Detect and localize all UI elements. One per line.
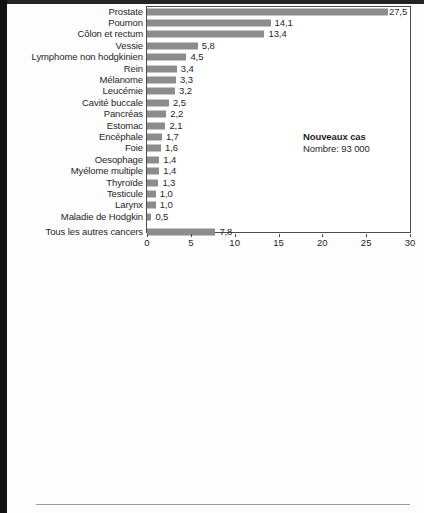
bar-track: 2,5 — [147, 97, 410, 108]
bar — [147, 31, 264, 38]
axis-tick-label: 20 — [317, 237, 328, 248]
bar-value-label: 1,4 — [163, 155, 176, 165]
category-label: Côlon et rectum — [77, 29, 143, 39]
bar-value-label: 2,2 — [170, 109, 183, 119]
category-label: Lymphome non hodgkinien — [32, 52, 143, 62]
bar-row: Côlon et rectum13,4 — [0, 29, 424, 40]
bar-row: Maladie de Hodgkin0,5 — [0, 211, 424, 222]
bar-value-label: 1,0 — [160, 200, 173, 210]
bar-track: 1,0 — [147, 200, 410, 211]
bar-value-label: 1,6 — [165, 143, 178, 153]
category-label: Cavité buccale — [82, 98, 143, 108]
bar-track: 1,4 — [147, 165, 410, 176]
footer-rule — [36, 504, 410, 505]
bar — [147, 42, 198, 49]
category-label: Testicule — [107, 189, 143, 199]
category-label: Foie — [125, 143, 143, 153]
category-label: Thyroïde — [106, 178, 143, 188]
bar-track: 1,6 — [147, 143, 410, 154]
bar-row: Lymphome non hodgkinien4,5 — [0, 52, 424, 63]
bar — [147, 179, 158, 186]
bar-value-label: 27,5 — [389, 7, 407, 17]
bar-value-label: 2,5 — [173, 98, 186, 108]
bar — [147, 65, 177, 72]
axis-tick-label: 10 — [229, 237, 240, 248]
bar — [147, 168, 159, 175]
bar-row: Prostate27,5 — [0, 6, 424, 17]
bar — [147, 122, 165, 129]
category-label: Myélome multiple — [71, 166, 143, 176]
bar-track: 1,4 — [147, 154, 410, 165]
bar-row: Vessie5,8 — [0, 40, 424, 51]
bar-row: Estomac2,1 — [0, 120, 424, 131]
bar — [147, 8, 388, 15]
bar-value-label: 4,5 — [190, 52, 203, 62]
axis-tick-label: 25 — [361, 237, 372, 248]
bar-row: Myélome multiple1,4 — [0, 165, 424, 176]
bar-track: 1,0 — [147, 188, 410, 199]
bar-value-label: 1,3 — [162, 178, 175, 188]
category-label: Vessie — [116, 41, 143, 51]
bar-value-label: 13,4 — [268, 29, 286, 39]
bar — [147, 213, 151, 220]
bar-row: Thyroïde1,3 — [0, 177, 424, 188]
bar-track: 2,2 — [147, 109, 410, 120]
axis-tick-label: 30 — [405, 237, 416, 248]
bar-track: 0,5 — [147, 211, 410, 222]
bar-value-label: 3,4 — [181, 64, 194, 74]
bar-value-label: 1,7 — [166, 132, 179, 142]
bar-track: 3,3 — [147, 74, 410, 85]
bar-row: Oesophage1,4 — [0, 154, 424, 165]
chart-panel-nouveaux-cas: Prostate27,5Poumon14,1Côlon et rectum13,… — [0, 0, 424, 252]
bar-row: Cavité buccale2,5 — [0, 97, 424, 108]
bar — [147, 190, 156, 197]
bar-value-label: 1,0 — [160, 189, 173, 199]
category-label: Leucémie — [103, 86, 143, 96]
bar-value-label: 1,4 — [163, 166, 176, 176]
category-label: Mélanome — [99, 75, 143, 85]
category-label: Larynx — [115, 200, 143, 210]
bar-value-label: 5,8 — [202, 41, 215, 51]
bar — [147, 77, 176, 84]
category-label: Prostate — [108, 7, 143, 17]
bar-row: Larynx1,0 — [0, 200, 424, 211]
bar-row: Poumon14,1 — [0, 17, 424, 28]
bar-row: Mélanome3,3 — [0, 74, 424, 85]
bar — [147, 202, 156, 209]
bar-track: 3,4 — [147, 63, 410, 74]
category-label: Tous les autres cancers — [46, 227, 144, 237]
annotation-title: Nouveaux cas — [303, 131, 370, 143]
category-label: Oesophage — [95, 155, 143, 165]
bar — [147, 111, 166, 118]
bar-track: 2,1 — [147, 120, 410, 131]
bar-track: 13,4 — [147, 29, 410, 40]
bar-track: 3,2 — [147, 86, 410, 97]
bar-rows-nouveaux-cas: Prostate27,5Poumon14,1Côlon et rectum13,… — [0, 6, 424, 238]
bar — [147, 20, 271, 27]
bar-track: 4,5 — [147, 52, 410, 63]
bar — [147, 54, 186, 61]
axis-tick-label: 0 — [144, 237, 149, 248]
bar-track: 1,7 — [147, 131, 410, 142]
axis-tick-label: 5 — [188, 237, 193, 248]
bar-value-label: 0,5 — [155, 212, 168, 222]
bar-value-label: 2,1 — [169, 121, 182, 131]
axis-tick-label: 15 — [273, 237, 284, 248]
bar-value-label: 3,2 — [179, 86, 192, 96]
category-label: Estomac — [107, 121, 143, 131]
bar-track: 1,3 — [147, 177, 410, 188]
bar-row: Leucémie3,2 — [0, 86, 424, 97]
x-axis-nouveaux-cas: 051015202530 — [146, 234, 411, 250]
category-label: Encéphale — [99, 132, 143, 142]
bar — [147, 99, 169, 106]
annotation-subtitle: Nombre: 93 000 — [303, 143, 370, 155]
bar — [147, 133, 162, 140]
bar-row: Testicule1,0 — [0, 188, 424, 199]
bar — [147, 88, 175, 95]
category-label: Maladie de Hodgkin — [61, 212, 143, 222]
chart-panel-deces: Poumon28,3Côlon et rectum12,5Prostate10,… — [0, 252, 424, 513]
category-label: Pancréas — [104, 109, 143, 119]
category-label: Poumon — [108, 18, 143, 28]
bar-track: 14,1 — [147, 17, 410, 28]
bar — [147, 156, 159, 163]
